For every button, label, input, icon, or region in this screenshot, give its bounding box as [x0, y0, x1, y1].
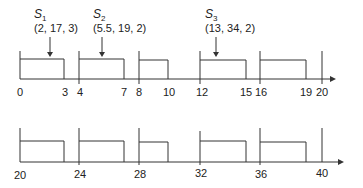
tick-label: 0 [17, 86, 23, 98]
bottom-axis-arrow-icon [338, 159, 344, 165]
server-s1-params: (2, 17, 3) [34, 22, 78, 34]
tick-label: 10 [163, 86, 175, 98]
server-s3-params: (13, 34, 2) [205, 22, 255, 34]
job-box [20, 141, 64, 162]
job-box [139, 60, 168, 79]
tick-label: 36 [255, 168, 267, 180]
tick-label: 20 [14, 169, 26, 181]
tick-label: 32 [195, 167, 207, 179]
tick-label: 7 [121, 86, 127, 98]
server-s1-label: S1 [34, 7, 46, 23]
tick-label: 19 [300, 86, 312, 98]
tick-label: 12 [196, 86, 208, 98]
top-axis-arrow-icon [330, 76, 336, 82]
tick-label: 15 [240, 86, 252, 98]
job-box [260, 60, 306, 79]
tick-label: 20 [316, 86, 328, 98]
job-box [200, 60, 246, 79]
tick-label: 16 [255, 86, 267, 98]
server-s3-label: S3 [205, 7, 217, 23]
s3-arrow-icon [213, 52, 219, 57]
job-box [79, 59, 124, 79]
job-box [200, 141, 246, 162]
tick-label: 24 [74, 168, 86, 180]
server-s2-params: (5.5, 19, 2) [93, 22, 146, 34]
job-box [20, 59, 64, 79]
job-box [260, 142, 306, 162]
s2-arrow-icon [99, 52, 105, 57]
s1-arrow-icon [47, 52, 53, 57]
server-s2-label: S2 [93, 7, 105, 23]
job-box [139, 142, 168, 162]
tick-label: 4 [77, 86, 83, 98]
job-box [79, 141, 124, 162]
tick-label: 8 [136, 86, 142, 98]
tick-label: 3 [62, 86, 68, 98]
tick-label: 40 [316, 167, 328, 179]
tick-label: 28 [134, 168, 146, 180]
